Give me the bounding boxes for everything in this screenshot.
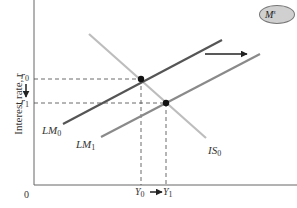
is0-sub: 0 (217, 149, 221, 158)
y1-tick-label: Y1 (163, 187, 173, 199)
is0-curve (89, 34, 206, 138)
y0-tick-label: Y0 (135, 187, 145, 199)
y0-sub: 0 (141, 190, 145, 199)
equilibrium-e0 (138, 76, 144, 82)
lm1-label: LM1 (76, 139, 95, 152)
r0-sub: 0 (25, 74, 29, 83)
r1-tick-label: r1 (21, 97, 29, 109)
islm-chart (0, 0, 297, 208)
lm0-curve (63, 40, 222, 124)
lm0-label: LM0 (42, 125, 61, 138)
ms-label: Ms (265, 9, 276, 20)
ms-sup: s (273, 9, 275, 15)
is0-label: IS0 (208, 145, 221, 158)
y1-sub: 1 (169, 190, 173, 199)
money-supply-badge: Ms (259, 5, 295, 24)
equilibrium-e1 (163, 100, 169, 106)
lm1-main: LM (76, 138, 91, 150)
lm0-sub: 0 (57, 129, 61, 138)
origin-label: 0 (24, 189, 29, 200)
is0-main: IS (208, 144, 217, 156)
lm0-main: LM (42, 124, 57, 136)
r0-tick-label: r0 (21, 71, 29, 83)
lm1-sub: 1 (91, 143, 95, 152)
r1-sub: 1 (25, 100, 29, 109)
